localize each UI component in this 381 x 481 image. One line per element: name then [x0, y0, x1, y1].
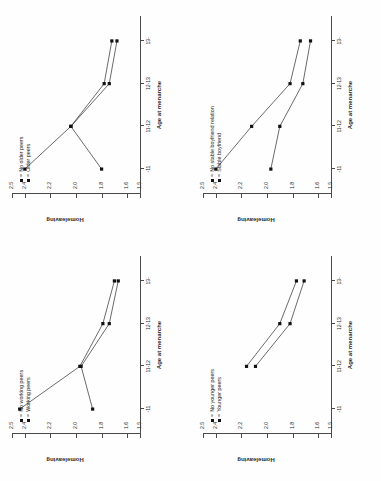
- data-point-marker: [301, 82, 304, 85]
- data-point-marker: [91, 407, 94, 410]
- data-point-marker: [288, 322, 291, 325]
- data-point-marker: [288, 82, 291, 85]
- data-point-marker: [309, 39, 312, 42]
- series-line: [81, 281, 118, 409]
- panel-slot-bottom-right: 2.52.42.22.01.81.61.5-1111-1212-1313-Hom…: [191, 240, 381, 480]
- series-layer: [0, 240, 190, 480]
- panel-older-peers: 2.52.42.22.01.81.61.5-1111-1212-1313-Hom…: [0, 0, 190, 240]
- data-point-marker: [245, 365, 248, 368]
- data-point-marker: [269, 167, 272, 170]
- data-point-marker: [108, 82, 111, 85]
- data-point-marker: [299, 39, 302, 42]
- data-point-marker: [108, 322, 111, 325]
- data-point-marker: [117, 279, 120, 282]
- series-line: [271, 41, 311, 169]
- data-point-marker: [100, 167, 103, 170]
- data-point-marker: [254, 365, 257, 368]
- data-point-marker: [103, 82, 106, 85]
- data-point-marker: [303, 279, 306, 282]
- data-point-marker: [80, 365, 83, 368]
- data-point-marker: [101, 322, 104, 325]
- data-point-marker: [278, 125, 281, 128]
- data-point-marker: [23, 167, 26, 170]
- series-line: [20, 281, 115, 409]
- series-layer: [191, 240, 381, 480]
- figure-canvas: 2.52.42.22.01.81.61.5-1111-1212-1313-Hom…: [0, 0, 381, 481]
- series-layer: [0, 0, 190, 240]
- panel-slot-top-right: 2.52.42.22.01.81.61.5-1111-1212-1313-Hom…: [191, 0, 381, 240]
- panel-younger-peers: 2.52.42.22.01.81.61.5-1111-1212-1313-Hom…: [191, 240, 381, 480]
- panel-slot-bottom-left: 2.52.42.22.01.81.61.5-1111-1212-1313-Hom…: [0, 240, 190, 480]
- panel-boyfriend: 2.52.42.22.01.81.61.5-1111-1212-1313-Hom…: [191, 0, 381, 240]
- panel-slot-top-left: 2.52.42.22.01.81.61.5-1111-1212-1313-Hom…: [0, 0, 190, 240]
- data-point-marker: [295, 279, 298, 282]
- data-point-marker: [250, 125, 253, 128]
- series-line: [25, 41, 112, 169]
- data-point-marker: [214, 167, 217, 170]
- data-point-marker: [278, 322, 281, 325]
- data-point-marker: [110, 39, 113, 42]
- series-line: [71, 41, 117, 169]
- panel-working-peers: 2.52.42.22.01.81.61.5-1111-1212-1313-Hom…: [0, 240, 190, 480]
- series-layer: [191, 0, 381, 240]
- data-point-marker: [69, 125, 72, 128]
- data-point-marker: [115, 39, 118, 42]
- data-point-marker: [18, 407, 21, 410]
- data-point-marker: [113, 279, 116, 282]
- series-line: [216, 41, 300, 169]
